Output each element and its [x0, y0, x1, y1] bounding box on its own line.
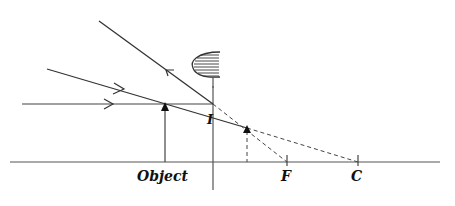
reflected-ray: [99, 21, 213, 104]
focus-label: F: [280, 168, 292, 184]
ray-diagram: I Object F C: [0, 0, 455, 206]
object-label: Object: [137, 168, 188, 184]
center-label: C: [351, 168, 362, 184]
dashed-extension-center: [247, 128, 358, 162]
image-label: I: [206, 112, 214, 127]
incident-ray-oblique: [47, 69, 247, 128]
mirror-cap-icon: [192, 52, 220, 88]
